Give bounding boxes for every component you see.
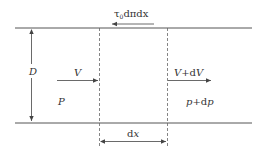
diameter-label: D	[28, 66, 37, 77]
inlet-velocity-label: V	[74, 67, 83, 78]
shear-force-label: τ0dπdx	[114, 8, 149, 20]
length-label: dx	[127, 128, 139, 139]
outlet-velocity-label: V+dV	[174, 67, 205, 78]
inlet-pressure-label: P	[57, 96, 65, 107]
pipe-flow-diagram: τ0dπdx D V V+dV P p+dp dx	[0, 0, 265, 161]
outlet-pressure-label: p+dp	[186, 96, 214, 107]
